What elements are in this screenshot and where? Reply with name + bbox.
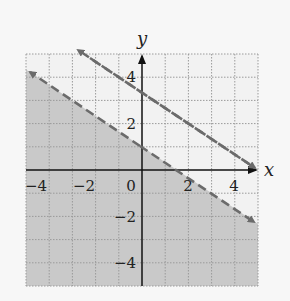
y-tick-label: −2	[114, 208, 136, 226]
x-tick-label: −4	[25, 177, 47, 195]
x-tick-label: 4	[229, 177, 239, 195]
y-tick-label: 2	[126, 115, 136, 133]
y-tick-label: −4	[114, 254, 136, 272]
x-axis-label: x	[264, 159, 274, 180]
x-tick-label: 0	[126, 177, 136, 195]
y-axis-label: y	[136, 28, 148, 49]
inequality-graph: y x −4 −2 0 2 4 4 2 −2 −4	[0, 0, 290, 301]
y-tick-label: 4	[126, 68, 136, 86]
x-tick-label: 2	[183, 177, 193, 195]
x-tick-label: −2	[73, 177, 95, 195]
